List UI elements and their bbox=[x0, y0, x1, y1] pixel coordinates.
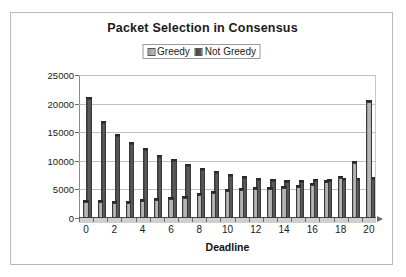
x-axis-tick-mark bbox=[79, 218, 80, 222]
y-axis-tick-label: 0 bbox=[69, 213, 74, 224]
bar-greedy bbox=[140, 201, 145, 218]
y-axis-tick-mark bbox=[75, 104, 79, 105]
y-axis-tick-label: 15000 bbox=[48, 127, 74, 138]
legend-label-greedy: Greedy bbox=[157, 46, 190, 57]
x-axis-tick-label: 12 bbox=[250, 224, 261, 235]
x-axis-tick-mark bbox=[362, 218, 363, 222]
bar-greedy bbox=[154, 200, 159, 218]
x-axis-tick-mark bbox=[164, 218, 165, 222]
bar-greedy bbox=[197, 195, 202, 218]
bar-greedy bbox=[324, 182, 329, 218]
bar-greedy bbox=[296, 187, 301, 218]
legend-item-greedy: Greedy bbox=[147, 46, 190, 57]
x-axis-tick-label: 14 bbox=[279, 224, 290, 235]
x-axis-tick-mark bbox=[93, 218, 94, 222]
x-axis-tick-label: 10 bbox=[222, 224, 233, 235]
chart-title: Packet Selection in Consensus bbox=[11, 21, 394, 35]
bar-greedy bbox=[366, 102, 371, 218]
x-axis-tick-mark bbox=[121, 218, 122, 222]
bar-greedy bbox=[112, 203, 117, 218]
gridline bbox=[79, 75, 376, 76]
x-axis-tick-label: 6 bbox=[168, 224, 174, 235]
chart-frame: Packet Selection in Consensus Greedy Not… bbox=[10, 12, 393, 265]
bar-greedy bbox=[83, 202, 88, 218]
x-axis-tick-mark bbox=[305, 218, 306, 222]
gridline bbox=[79, 132, 376, 133]
x-axis-arrow-icon bbox=[377, 216, 383, 222]
bar-greedy bbox=[281, 188, 286, 218]
y-axis-tick-label: 10000 bbox=[48, 155, 74, 166]
x-axis-tick-label: 16 bbox=[307, 224, 318, 235]
x-axis-tick-mark bbox=[220, 218, 221, 222]
y-axis-tick-mark bbox=[75, 132, 79, 133]
x-axis-tick-mark bbox=[249, 218, 250, 222]
x-axis-tick-mark bbox=[334, 218, 335, 222]
x-axis-tick-label: 18 bbox=[335, 224, 346, 235]
bar-front-face bbox=[352, 163, 357, 218]
legend-label-not-greedy: Not Greedy bbox=[205, 46, 256, 57]
bar-greedy bbox=[338, 178, 343, 218]
bar-front-face bbox=[98, 202, 103, 218]
bar-front-face bbox=[211, 193, 216, 218]
bar-front-face bbox=[197, 195, 202, 218]
bar-front-face bbox=[168, 199, 173, 218]
x-axis-tick-mark bbox=[348, 218, 349, 222]
bar-greedy bbox=[126, 203, 131, 218]
x-axis-label: Deadline bbox=[79, 241, 376, 253]
bar-greedy bbox=[182, 198, 187, 218]
bar-front-face bbox=[239, 190, 244, 218]
bar-front-face bbox=[296, 187, 301, 218]
bar-greedy bbox=[168, 199, 173, 218]
x-axis-tick-mark bbox=[178, 218, 179, 222]
bar-front-face bbox=[281, 188, 286, 218]
bar-greedy bbox=[253, 189, 258, 218]
x-axis-tick-label: 20 bbox=[363, 224, 374, 235]
x-axis-tick-mark bbox=[136, 218, 137, 222]
y-axis-tick-mark bbox=[75, 75, 79, 76]
bar-front-face bbox=[366, 102, 371, 218]
y-axis-tick-label: 25000 bbox=[48, 70, 74, 81]
plot-area: 0500010000150002000025000 02468101214161… bbox=[79, 75, 376, 218]
bar-greedy bbox=[267, 189, 272, 218]
x-axis-tick-label: 8 bbox=[196, 224, 202, 235]
gridline bbox=[79, 104, 376, 105]
bar-front-face bbox=[225, 191, 230, 218]
x-axis-tick-mark bbox=[263, 218, 264, 222]
bar-front-face bbox=[338, 178, 343, 218]
x-axis-tick-mark bbox=[277, 218, 278, 222]
y-axis-tick-label: 5000 bbox=[53, 184, 74, 195]
bar-front-face bbox=[182, 198, 187, 218]
bar-front-face bbox=[140, 201, 145, 218]
x-axis-tick-mark bbox=[235, 218, 236, 222]
bar-front-face bbox=[154, 200, 159, 218]
x-axis-tick-mark bbox=[192, 218, 193, 222]
chart-legend: Greedy Not Greedy bbox=[142, 44, 261, 59]
legend-swatch-greedy bbox=[147, 48, 155, 56]
gridline bbox=[79, 161, 376, 162]
bar-front-face bbox=[83, 202, 88, 218]
bar-greedy bbox=[239, 190, 244, 218]
legend-item-not-greedy: Not Greedy bbox=[195, 46, 256, 57]
bar-front-face bbox=[126, 203, 131, 218]
bar-greedy bbox=[225, 191, 230, 218]
x-axis-tick-mark bbox=[107, 218, 108, 222]
bar-greedy bbox=[98, 202, 103, 218]
x-axis-tick-label: 2 bbox=[112, 224, 118, 235]
bar-greedy bbox=[352, 163, 357, 218]
bar-greedy bbox=[310, 185, 315, 218]
y-axis-tick-mark bbox=[75, 161, 79, 162]
bar-front-face bbox=[267, 189, 272, 218]
legend-swatch-not-greedy bbox=[195, 48, 203, 56]
bar-front-face bbox=[324, 182, 329, 218]
bar-front-face bbox=[253, 189, 258, 218]
x-axis-tick-label: 0 bbox=[83, 224, 89, 235]
y-axis-tick-label: 20000 bbox=[48, 98, 74, 109]
x-axis-tick-mark bbox=[150, 218, 151, 222]
x-axis-tick-mark bbox=[206, 218, 207, 222]
bar-front-face bbox=[112, 203, 117, 218]
bar-front-face bbox=[310, 185, 315, 218]
x-axis-tick-label: 4 bbox=[140, 224, 146, 235]
y-axis-tick-mark bbox=[75, 189, 79, 190]
x-axis-tick-mark bbox=[291, 218, 292, 222]
x-axis-tick-mark bbox=[319, 218, 320, 222]
